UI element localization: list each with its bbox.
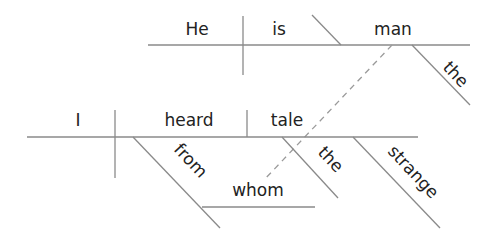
word-the-top: the (439, 57, 473, 91)
word-from: from (170, 139, 212, 182)
word-strange: strange (384, 141, 443, 202)
word-whom: whom (232, 180, 284, 200)
word-man: man (374, 19, 412, 39)
sentence-diagram: He is man the I heard tale from whom the… (0, 0, 504, 244)
predicate-nominative-slash (312, 15, 341, 45)
word-the-bottom: the (314, 142, 348, 176)
word-tale: tale (271, 110, 303, 130)
word-he: He (185, 19, 208, 39)
word-is: is (272, 19, 286, 39)
word-heard: heard (164, 110, 213, 130)
word-i: I (75, 110, 80, 130)
